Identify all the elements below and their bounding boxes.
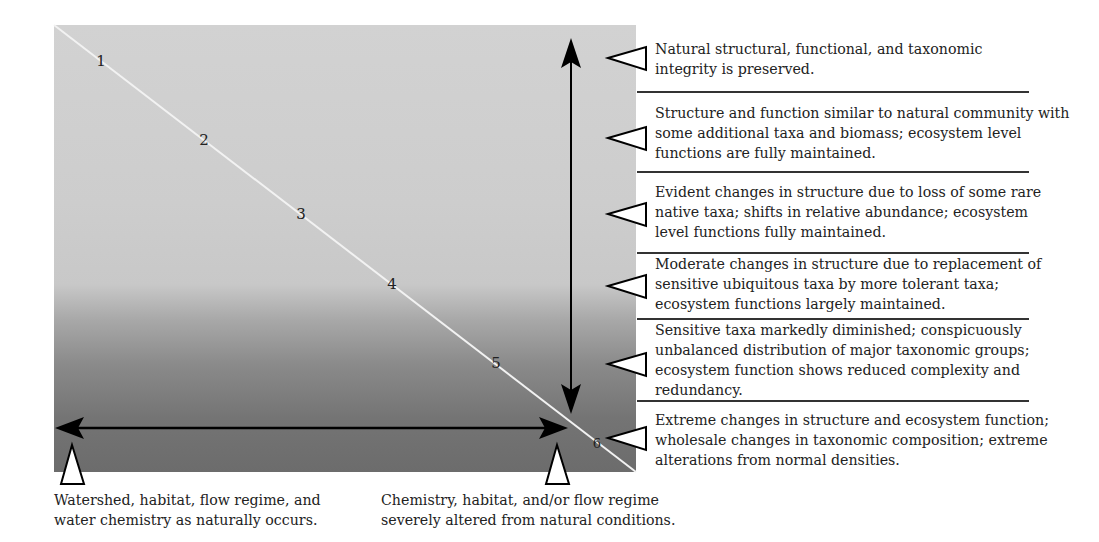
left-pointer-triangle-icon xyxy=(61,445,84,484)
level-4-description: Moderate changes in structure due to rep… xyxy=(655,254,1050,314)
level-number-4: 4 xyxy=(387,275,397,293)
level-number-6: 6 xyxy=(593,436,601,451)
level-number-5: 5 xyxy=(491,354,501,372)
level-number-3: 3 xyxy=(296,205,306,223)
level-6-description: Extreme changes in structure and ecosyst… xyxy=(655,410,1060,470)
level-1-description: Natural structural, functional, and taxo… xyxy=(655,39,1035,79)
level-2-pointer-icon xyxy=(608,127,646,150)
condition-gradient-line xyxy=(54,25,636,472)
level-number-2: 2 xyxy=(199,131,209,149)
level-separator xyxy=(637,400,1029,402)
level-3-description: Evident changes in structure due to loss… xyxy=(655,182,1045,242)
level-1-pointer-icon xyxy=(608,47,646,70)
level-5-description: Sensitive taxa markedly diminished; cons… xyxy=(655,320,1075,400)
level-2-description: Structure and function similar to natura… xyxy=(655,103,1090,163)
vertical-double-arrow-icon xyxy=(561,38,581,414)
horizontal-double-arrow-icon xyxy=(55,417,568,439)
level-3-pointer-icon xyxy=(608,203,646,226)
level-separator xyxy=(637,91,1029,93)
level-5-pointer-icon xyxy=(608,353,646,376)
level-number-1: 1 xyxy=(96,52,106,70)
altered-conditions-caption: Chemistry, habitat, and/or flow regime s… xyxy=(381,490,681,530)
level-pointer-triangles xyxy=(608,47,646,450)
level-4-pointer-icon xyxy=(608,275,646,298)
level-separator xyxy=(637,171,1029,173)
right-pointer-triangle-icon xyxy=(546,445,569,484)
level-6-pointer-icon xyxy=(608,427,646,450)
natural-conditions-caption: Watershed, habitat, flow regime, and wat… xyxy=(54,490,344,530)
